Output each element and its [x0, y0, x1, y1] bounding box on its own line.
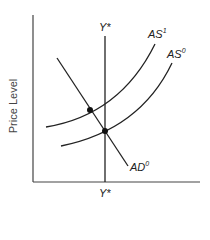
ad0-label-text: AD — [130, 161, 145, 173]
ystar-top-label: Y* — [99, 22, 111, 33]
as0-label-text: AS — [167, 48, 182, 60]
y-axis-label: Price Level — [7, 71, 19, 141]
ad0-label: AD0 — [130, 160, 149, 173]
equilibrium-point-2 — [102, 128, 108, 134]
as0-label-sup: 0 — [182, 47, 186, 54]
ystar-bottom-label: Y* — [99, 188, 111, 199]
as1-curve — [46, 44, 155, 127]
as1-label-text: AS — [148, 28, 163, 40]
ad0-label-sup: 0 — [145, 160, 149, 167]
equilibrium-point-1 — [87, 107, 93, 113]
as1-label: AS1 — [148, 27, 167, 40]
as0-curve — [61, 63, 172, 146]
ad0-line — [57, 58, 128, 166]
as0-label: AS0 — [167, 47, 186, 60]
as1-label-sup: 1 — [163, 27, 167, 34]
